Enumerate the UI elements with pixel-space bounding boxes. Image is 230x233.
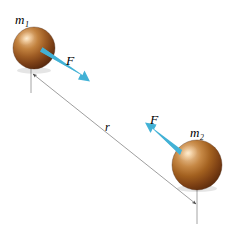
separation-distance-label: r [105,121,110,133]
mass-1-sphere [13,27,55,74]
mass-2-sphere [172,140,222,192]
force-arrow-mass-2 [145,123,182,156]
force-2-label: F [150,113,158,127]
separation-distance-line [33,74,196,204]
mass-2-label: m₂ [190,126,204,139]
figure-canvas [0,0,230,233]
gravitation-figure: m₁ m₂ F F r [0,0,230,233]
force-1-label: F [66,54,74,68]
mass-1-label: m₁ [15,13,29,26]
